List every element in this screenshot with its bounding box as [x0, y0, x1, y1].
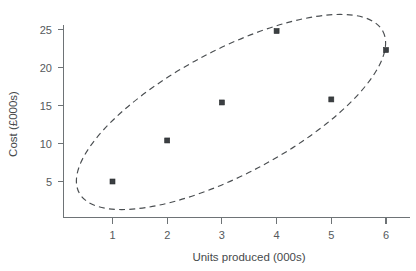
y-tick-label-10: 10 — [40, 138, 52, 150]
y-tick-label-15: 15 — [40, 100, 52, 112]
data-point-marker — [110, 179, 115, 184]
y-tick-label-5: 5 — [46, 176, 52, 188]
x-axis-tick-labels: 1 2 3 4 5 6 — [109, 229, 389, 241]
data-point-marker — [274, 29, 279, 34]
x-axis-ticks — [113, 218, 387, 225]
y-axis-ticks — [58, 30, 64, 182]
chart-canvas: 25 20 15 10 5 1 2 3 4 5 6 Units produced… — [0, 0, 416, 271]
data-point-marker — [384, 48, 389, 53]
data-point-markers — [110, 29, 389, 184]
y-tick-label-25: 25 — [40, 24, 52, 36]
x-tick-label-3: 3 — [219, 229, 225, 241]
x-tick-label-5: 5 — [328, 229, 334, 241]
x-tick-label-4: 4 — [274, 229, 280, 241]
scatter-chart: 25 20 15 10 5 1 2 3 4 5 6 Units produced… — [0, 0, 416, 271]
data-point-marker — [219, 100, 224, 105]
y-axis-tick-labels: 25 20 15 10 5 — [40, 24, 52, 188]
x-tick-label-2: 2 — [164, 229, 170, 241]
x-tick-label-6: 6 — [383, 229, 389, 241]
data-point-marker — [329, 97, 334, 102]
y-tick-label-20: 20 — [40, 62, 52, 74]
x-tick-label-1: 1 — [109, 229, 115, 241]
y-axis-title: Cost (£000s) — [7, 91, 19, 157]
data-point-marker — [165, 138, 170, 143]
x-axis-title: Units produced (000s) — [192, 251, 305, 263]
correlation-ellipse — [50, 0, 412, 247]
